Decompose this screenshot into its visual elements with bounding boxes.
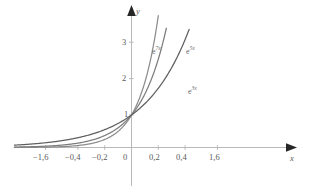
y-tick-label-3: 3 — [122, 37, 126, 47]
exponential-functions-chart: −1,6 −0,4 −0,2 0 0,2 0,4 1,6 3 2 1 y x e… — [0, 0, 309, 191]
x-tick-label-0-4: 0,4 — [176, 152, 187, 162]
curve-e3x — [15, 29, 190, 145]
y-axis-arrowhead — [127, 5, 136, 16]
x-tick-label-0: 0 — [123, 152, 127, 162]
x-tick-label-neg1-6: −1,6 — [33, 152, 48, 162]
curves-group — [14, 16, 189, 148]
curve-e7x — [14, 16, 158, 148]
y-tick-label-1: 1 — [124, 109, 128, 119]
curve-label-e3x-exponent: 3x — [192, 85, 197, 91]
curve-label-e7x: e7x — [152, 47, 161, 56]
y-tick-label-2: 2 — [122, 73, 126, 83]
x-tick-label-neg0-4: −0,4 — [65, 152, 80, 162]
x-axis-arrowhead — [286, 143, 297, 152]
x-tick-label-1-6: 1,6 — [209, 152, 220, 162]
curve-label-e7x-exponent: 7x — [156, 45, 161, 51]
curve-label-e5x-exponent: 5x — [190, 45, 195, 51]
x-tick-label-neg0-2: −0,2 — [92, 152, 107, 162]
chart-canvas — [0, 0, 309, 191]
x-tick-label-0-2: 0,2 — [149, 152, 160, 162]
x-axis-label: x — [290, 153, 294, 163]
curve-label-e3x: e3x — [188, 87, 197, 96]
curve-label-e5x: e5x — [186, 47, 195, 56]
y-axis-label: y — [136, 6, 140, 16]
